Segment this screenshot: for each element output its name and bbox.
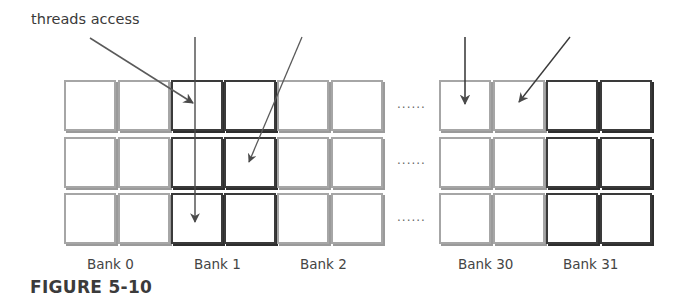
arrow-icon <box>519 37 570 102</box>
bank-conflict-diagram: threads access Bank 0 Bank 1 Bank 2 ....… <box>0 0 681 306</box>
arrow-icon <box>90 38 193 103</box>
thread-access-arrows <box>0 0 681 306</box>
arrow-icon <box>249 37 302 162</box>
figure-caption: FIGURE 5-10 <box>30 277 152 297</box>
